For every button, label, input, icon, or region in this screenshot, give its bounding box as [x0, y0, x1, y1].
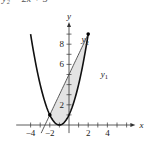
- series-label-y1: y1: [100, 69, 108, 81]
- x-tick-label: −2: [45, 128, 55, 138]
- series-label-subscript: 2: [85, 39, 88, 46]
- y-tick-label: 2: [60, 100, 65, 110]
- x-tick-label: 4: [105, 128, 110, 138]
- x-axis-arrow: [130, 123, 135, 127]
- x-tick-label: 2: [86, 128, 91, 138]
- y-axis-label: y: [66, 11, 71, 21]
- chart: −4−224268xy y2y1: [0, 0, 144, 146]
- y-tick-label: 6: [60, 59, 65, 69]
- intersection-point: [48, 113, 52, 117]
- y-axis-arrow: [67, 22, 71, 27]
- intersection-point: [86, 32, 90, 36]
- x-tick-label: −4: [26, 128, 36, 138]
- y-tick-label: 8: [60, 39, 65, 49]
- x-axis-label: x: [138, 120, 143, 130]
- series-label-subscript: 1: [105, 73, 108, 80]
